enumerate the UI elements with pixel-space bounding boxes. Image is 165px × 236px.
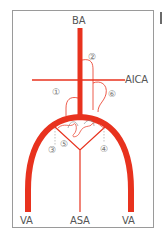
marker-2: ② [88,53,96,62]
vertebrobasilar-diagram [0,0,165,236]
loop-1 [66,97,78,116]
marker-3: ③ [48,146,56,155]
label-aica: AICA [125,75,148,85]
label-va-left: VA [20,216,33,226]
loop-6 [93,82,106,112]
label-asa: ASA [70,216,90,226]
label-va-right: VA [122,216,135,226]
marker-1: ① [52,88,60,97]
marker-6: ⑥ [108,90,116,99]
marker-4: ④ [100,145,108,154]
marker-5: ⑤ [60,140,68,149]
loop-2 [82,60,93,110]
label-ba: BA [72,16,85,26]
